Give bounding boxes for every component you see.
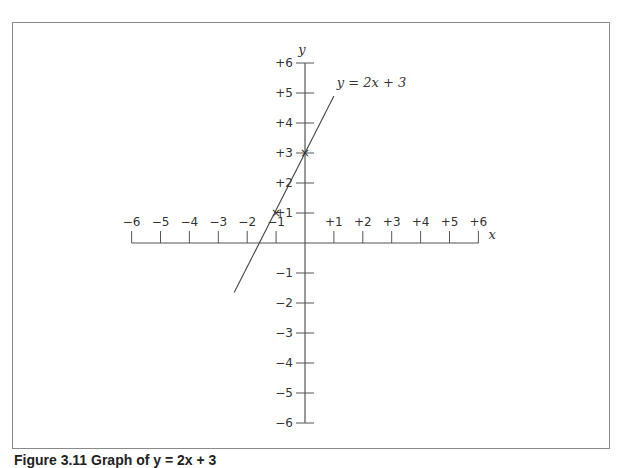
y-tick-label: +5 xyxy=(275,86,293,100)
x-tick-label: +4 xyxy=(412,215,430,229)
x-tick-label: +5 xyxy=(441,215,459,229)
y-tick-label: −6 xyxy=(275,416,293,430)
x-tick-label: −2 xyxy=(238,215,256,229)
y-axis-label: y xyxy=(297,42,306,57)
x-tick-label: −3 xyxy=(209,215,227,229)
x-tick-label: +1 xyxy=(325,215,343,229)
y-tick-label: −4 xyxy=(275,356,293,370)
x-tick-label: +2 xyxy=(354,215,372,229)
x-tick-label: −4 xyxy=(181,215,199,229)
point-marker: × xyxy=(271,206,281,220)
x-tick-label: +3 xyxy=(383,215,401,229)
y-tick-label: −2 xyxy=(275,296,293,310)
figure-caption: Figure 3.11 Graph of y = 2x + 3 xyxy=(14,452,216,468)
line-equation-label: y = 2x + 3 xyxy=(336,75,407,90)
x-axis-label: x xyxy=(488,227,496,242)
point-marker: × xyxy=(300,146,310,160)
x-tick-label: +6 xyxy=(470,215,488,229)
x-tick-label: −6 xyxy=(123,215,141,229)
y-tick-label: −3 xyxy=(275,326,293,340)
y-tick-label: +6 xyxy=(275,56,293,70)
y-tick-label: +3 xyxy=(275,146,293,160)
y-tick-label: −5 xyxy=(275,386,293,400)
x-tick-label: −5 xyxy=(152,215,170,229)
y-tick-label: +4 xyxy=(275,116,293,130)
y-tick-label: −1 xyxy=(275,266,293,280)
